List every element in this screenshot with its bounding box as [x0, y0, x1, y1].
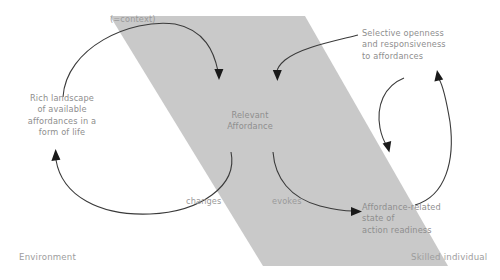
edge-readiness-to-openness: [415, 79, 451, 205]
node-action-readiness: Affordance-related state of action readi…: [362, 202, 480, 236]
zone-label-skilled-individual: Skilled individual: [411, 252, 487, 262]
node-relevant-affordance: Relevant Affordance: [196, 110, 304, 133]
edge-label-context: (=context): [110, 14, 180, 25]
node-rich-landscape: Rich landscape of available affordances …: [8, 93, 116, 139]
edge-openness-to-readiness: [379, 78, 404, 146]
edge-label-changes: changes: [186, 196, 221, 207]
affordance-diagram: (=context) Rich landscape of available a…: [0, 0, 500, 280]
edge-label-evokes: evokes: [272, 196, 302, 207]
arrowhead-affordance-to-landscape: [51, 149, 60, 161]
node-selective-openness: Selective openness and responsiveness to…: [362, 28, 480, 62]
arrowhead-openness-to-readiness: [383, 141, 392, 153]
zone-label-environment: Environment: [19, 252, 76, 262]
arrowhead-readiness-to-openness: [434, 70, 443, 82]
